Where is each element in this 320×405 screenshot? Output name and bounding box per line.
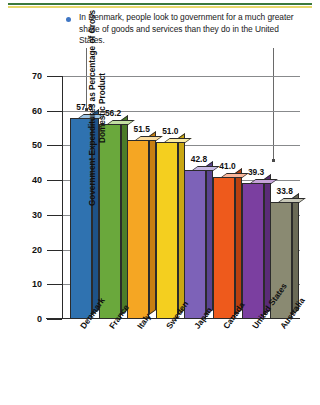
y-tick-mark-70 [47,76,62,77]
y-tick-label-20: 20 [20,245,42,255]
y-tick-label-50: 50 [20,140,42,150]
bar-front-face [127,140,149,319]
y-tick-label-0: 0 [20,314,42,324]
bar-italy [127,76,156,319]
y-tick-mark-60 [47,111,62,112]
y-tick-mark-30 [47,215,62,216]
y-tick-label-60: 60 [20,106,42,116]
bullet-icon [66,17,71,22]
y-tick-mark-0 [47,319,62,320]
y-axis-line [62,76,63,319]
y-tick-label-70: 70 [20,71,42,81]
yellow-rule [8,6,312,8]
y-tick-label-10: 10 [20,279,42,289]
y-axis-title-text: Government Expenditures as Percentage of… [88,0,108,218]
y-tick-mark-50 [47,145,62,146]
bar-value-label: 33.8 [265,186,305,196]
caption-text: In Denmark, people look to government fo… [79,12,301,47]
bar-front-face [156,142,178,319]
bar-front-face [184,170,206,319]
bar-japan [184,76,213,319]
y-tick-label-40: 40 [20,175,42,185]
y-tick-mark-40 [47,180,62,181]
bar-front-face [242,183,264,319]
header-decorative-rules [0,0,320,10]
green-rule [8,3,312,5]
bar-canada [213,76,242,319]
bar-front-face [213,177,235,319]
y-tick-mark-10 [47,284,62,285]
bar-united-states [242,76,271,319]
bar-sweden [156,76,185,319]
y-tick-label-30: 30 [20,210,42,220]
y-tick-mark-20 [47,250,62,251]
y-axis-title: Government Expenditures as Percentage of… [88,0,112,218]
